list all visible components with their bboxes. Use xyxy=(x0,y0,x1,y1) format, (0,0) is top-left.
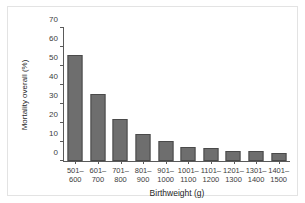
bar[interactable] xyxy=(90,94,105,161)
x-axis-tick-label-line: 501– xyxy=(67,166,84,175)
x-axis-tick-label-line: 1000 xyxy=(157,175,174,184)
x-axis-tick-label-line: 1300 xyxy=(223,175,244,184)
bar-slot xyxy=(132,28,155,161)
x-axis-tick xyxy=(75,161,76,164)
x-axis-tick-label-line: 600 xyxy=(67,175,84,184)
x-axis-tick-label-line: 1200 xyxy=(201,175,221,184)
figure-root: Mortality overall (%) Birthweight (g) 01… xyxy=(0,0,305,203)
x-axis-tick xyxy=(256,161,257,164)
x-axis-tick xyxy=(188,161,189,164)
bar[interactable] xyxy=(271,153,286,161)
x-axis-tick-label: 701–800 xyxy=(112,166,129,184)
x-axis-tick xyxy=(98,161,99,164)
x-axis-tick-label-line: 601– xyxy=(90,166,107,175)
x-axis-tick xyxy=(279,161,280,164)
x-axis-tick-label: 1001–1100 xyxy=(178,166,199,184)
plot-area: Birthweight (g) 010203040506070501–60060… xyxy=(63,28,290,162)
x-axis-tick-label-line: 1401– xyxy=(268,166,289,175)
bar[interactable] xyxy=(203,148,218,161)
x-axis-tick-label: 801–900 xyxy=(135,166,152,184)
x-axis-tick-label: 501–600 xyxy=(67,166,84,184)
bar-slot xyxy=(177,28,200,161)
x-axis-tick-label: 601–700 xyxy=(90,166,107,184)
bar[interactable] xyxy=(136,134,151,161)
bar-slot xyxy=(200,28,223,161)
x-axis-tick xyxy=(143,161,144,164)
bar[interactable] xyxy=(249,151,264,161)
x-axis-title: Birthweight (g) xyxy=(64,188,290,198)
bar[interactable] xyxy=(113,119,128,161)
x-axis-tick-label: 1201–1300 xyxy=(223,166,244,184)
bar[interactable] xyxy=(226,151,241,161)
x-axis-tick xyxy=(166,161,167,164)
chart-panel: Mortality overall (%) Birthweight (g) 01… xyxy=(7,6,298,196)
y-axis-tick xyxy=(60,141,64,142)
y-axis-tick-label: 50 xyxy=(49,54,58,62)
x-axis-tick-label-line: 1101– xyxy=(201,166,221,175)
y-axis-tick xyxy=(60,103,64,104)
y-axis-title: Mortality overall (%) xyxy=(19,28,31,162)
y-axis-tick xyxy=(60,84,64,85)
bar-slot xyxy=(154,28,177,161)
x-axis-tick-label: 1101–1200 xyxy=(201,166,221,184)
bar-slot xyxy=(87,28,110,161)
x-axis-tick-label: 1301–1400 xyxy=(246,166,267,184)
x-axis-tick-label-line: 1500 xyxy=(268,175,289,184)
x-axis-tick-label-line: 1001– xyxy=(178,166,199,175)
y-axis-tick-label: 0 xyxy=(54,149,58,157)
y-axis-tick-label: 30 xyxy=(49,92,58,100)
x-axis-tick-label-line: 800 xyxy=(112,175,129,184)
x-axis-tick-label: 901–1000 xyxy=(157,166,174,184)
y-axis-tick-label: 60 xyxy=(49,35,58,43)
x-axis-tick xyxy=(121,161,122,164)
bar-slot xyxy=(267,28,290,161)
x-axis-tick-label-line: 901– xyxy=(157,166,174,175)
bar-slot xyxy=(64,28,87,161)
bar-slot xyxy=(109,28,132,161)
y-axis-tick-label: 20 xyxy=(49,111,58,119)
x-axis-tick-label-line: 1400 xyxy=(246,175,267,184)
x-axis-tick xyxy=(234,161,235,164)
y-axis-tick-label: 70 xyxy=(49,16,58,24)
bar[interactable] xyxy=(158,141,173,161)
x-axis-tick-label-line: 701– xyxy=(112,166,129,175)
bar-slot xyxy=(222,28,245,161)
y-axis-tick xyxy=(60,160,64,161)
y-axis-tick xyxy=(60,27,64,28)
bar[interactable] xyxy=(181,147,196,161)
x-axis-tick-label-line: 1201– xyxy=(223,166,244,175)
x-axis-tick-label-line: 700 xyxy=(90,175,107,184)
bar[interactable] xyxy=(68,55,83,161)
y-axis-tick xyxy=(60,46,64,47)
x-axis-tick-label-line: 900 xyxy=(135,175,152,184)
x-axis-tick-label-line: 801– xyxy=(135,166,152,175)
bars-layer xyxy=(64,28,290,161)
y-axis-tick-label: 40 xyxy=(49,73,58,81)
x-axis-tick-label: 1401–1500 xyxy=(268,166,289,184)
y-axis-tick xyxy=(60,122,64,123)
bar-slot xyxy=(245,28,268,161)
y-axis-tick xyxy=(60,65,64,66)
x-axis-tick-label-line: 1301– xyxy=(246,166,267,175)
y-axis-tick-label: 10 xyxy=(49,130,58,138)
x-axis-tick xyxy=(211,161,212,164)
x-axis-tick-label-line: 1100 xyxy=(178,175,199,184)
